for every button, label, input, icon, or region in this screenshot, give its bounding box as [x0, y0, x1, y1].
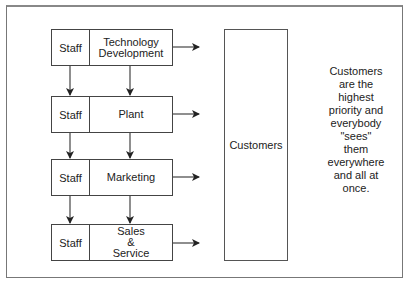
- arrows: [0, 0, 412, 284]
